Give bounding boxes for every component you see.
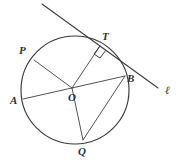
point-label-Q: Q — [78, 146, 86, 157]
tangent-line-label: ℓ — [165, 85, 170, 96]
right-angle-mark-leg — [94, 47, 100, 55]
segment-Q-B — [83, 76, 125, 140]
point-label-T: T — [102, 31, 109, 42]
circle-outline — [21, 36, 129, 144]
point-label-O: O — [68, 92, 76, 103]
geometry-canvas — [0, 0, 178, 163]
point-label-A: A — [10, 95, 17, 106]
geometry-figure: P T B A O Q ℓ — [0, 0, 178, 163]
point-label-P: P — [19, 45, 26, 56]
point-label-B: B — [127, 73, 134, 84]
segment-P-O — [34, 60, 72, 88]
